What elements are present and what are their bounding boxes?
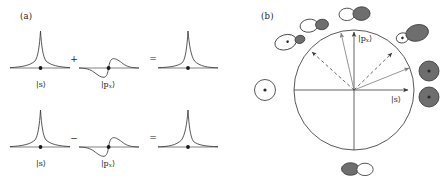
orbital-hybrid-155 <box>273 30 306 53</box>
figure-root: (a) |s⟩ |px⟩ + = |s⟩ |px⟩ − = <box>0 0 448 185</box>
dashed-arrow-135 <box>312 52 354 90</box>
panel-b-diagram <box>0 0 448 185</box>
orbital-hybrid-20 <box>394 22 430 46</box>
arrow-hybrid-22 <box>354 68 409 90</box>
orbital-p-right-lower <box>419 87 439 107</box>
orbital-hybrid-bottom <box>342 163 374 176</box>
orbital-hybrid-100 <box>339 6 371 21</box>
arrow-hybrid-78 <box>341 33 354 90</box>
dashed-arrow-45 <box>354 53 392 90</box>
orbital-s-pure-left <box>255 80 276 101</box>
orbital-p-right-upper <box>419 61 439 81</box>
orbital-hybrid-125 <box>299 17 329 34</box>
